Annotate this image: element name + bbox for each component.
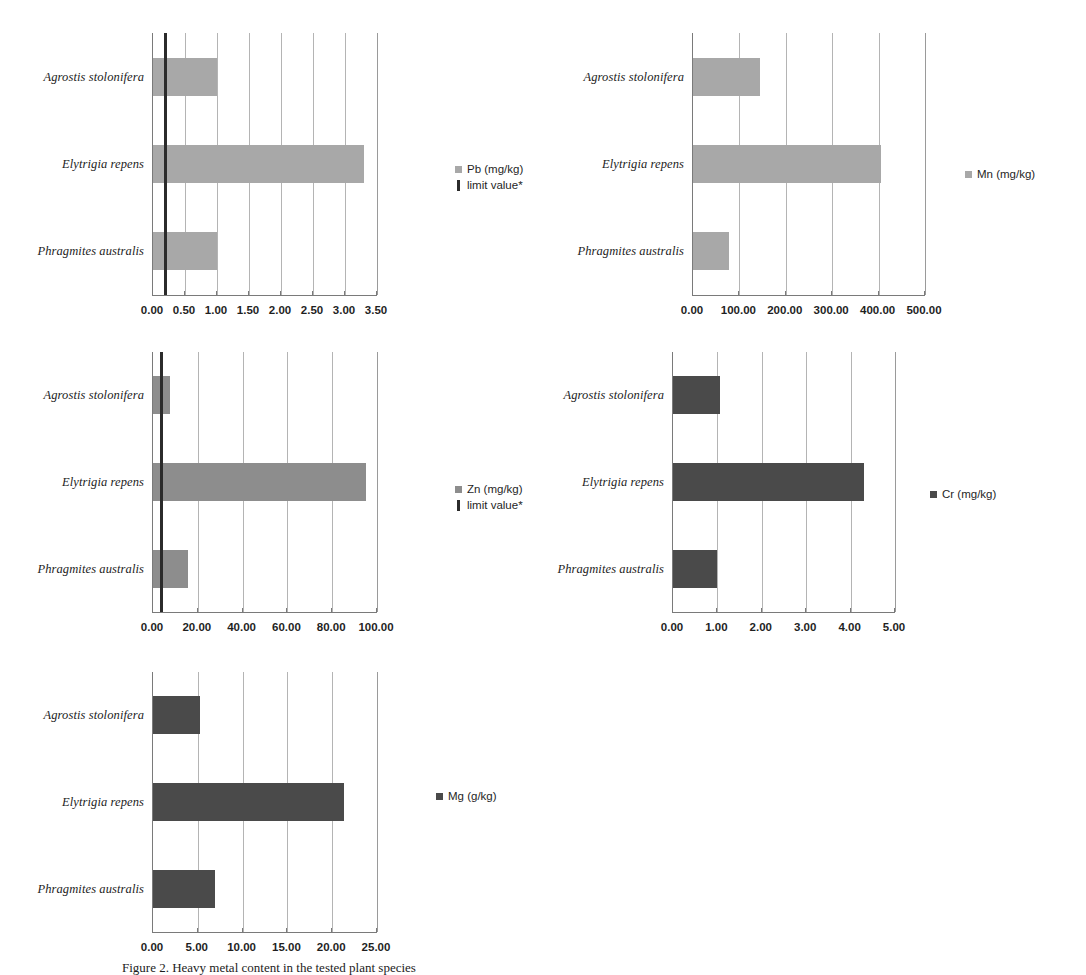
x-axis-tick (152, 291, 153, 296)
legend-item-series: Pb (mg/kg) (455, 163, 523, 176)
gridline (925, 33, 926, 295)
limit-value-line (160, 352, 163, 612)
chart-panel-mg: 0.005.0010.0015.0020.0025.00Agrostis sto… (0, 0, 1086, 975)
x-tick-label: 1.00 (205, 304, 227, 316)
legend-item-series: Zn (mg/kg) (455, 483, 523, 496)
x-axis-tick (376, 928, 377, 933)
x-axis-tick (197, 928, 198, 933)
legend-swatch-icon (455, 486, 462, 493)
x-axis-tick (331, 928, 332, 933)
x-axis-line-pb (152, 295, 376, 296)
x-axis-tick (197, 608, 198, 613)
legend-item-series: Mn (mg/kg) (965, 168, 1035, 181)
bar-mn-2 (693, 232, 729, 270)
chart-panel-zn: 0.0020.0040.0060.0080.00100.00Agrostis s… (0, 0, 1086, 975)
gridline (377, 352, 378, 612)
legend-item-series: Mg (g/kg) (436, 790, 497, 803)
legend-limit-label: limit value* (467, 499, 523, 512)
legend-limit-label: limit value* (467, 179, 523, 192)
x-tick-label: 40.00 (227, 621, 256, 633)
legend-item-limit: limit value* (455, 179, 523, 192)
x-tick-label: 4.00 (838, 621, 860, 633)
x-tick-label: 20.00 (317, 941, 346, 953)
gridline (243, 352, 244, 612)
category-label: Phragmites australis (37, 244, 144, 259)
legend-item-limit: limit value* (455, 499, 523, 512)
gridline (287, 672, 288, 932)
legend-limit-line-icon (457, 500, 460, 511)
plot-area-pb (152, 33, 376, 295)
bar-zn-0 (153, 376, 170, 414)
gridline (832, 33, 833, 295)
gridline (198, 352, 199, 612)
chart-panel-mn: 0.00100.00200.00300.00400.00500.00Agrost… (0, 0, 1086, 975)
legend-swatch-icon (455, 166, 462, 173)
bar-zn-2 (153, 550, 188, 588)
category-label: Phragmites australis (37, 561, 144, 576)
legend-series-label: Pb (mg/kg) (467, 163, 523, 176)
category-label: Phragmites australis (557, 561, 664, 576)
x-axis-tick (672, 608, 673, 613)
legend-swatch-icon (965, 171, 972, 178)
legend-series-label: Zn (mg/kg) (467, 483, 523, 496)
x-axis-tick (216, 291, 217, 296)
legend-swatch-icon (930, 491, 937, 498)
gridline (806, 352, 807, 612)
x-tick-label: 1.00 (705, 621, 727, 633)
category-label: Elytrigia repens (62, 157, 144, 172)
x-axis-tick (312, 291, 313, 296)
bar-cr-2 (673, 550, 717, 588)
x-axis-tick (242, 608, 243, 613)
x-axis-tick (894, 608, 895, 613)
x-tick-label: 0.00 (681, 304, 703, 316)
gridline (243, 672, 244, 932)
chart-panel-pb: 0.000.501.001.502.002.503.003.50Agrostis… (0, 0, 1086, 975)
gridline (345, 33, 346, 295)
category-label: Agrostis stolonifera (563, 388, 664, 403)
x-axis-tick (286, 928, 287, 933)
x-axis-tick (184, 291, 185, 296)
gridline (217, 33, 218, 295)
x-tick-label: 1.50 (237, 304, 259, 316)
x-tick-label: 0.00 (141, 941, 163, 953)
gridline (287, 352, 288, 612)
x-tick-label: 100.00 (721, 304, 756, 316)
x-tick-label: 60.00 (272, 621, 301, 633)
x-tick-label: 15.00 (272, 941, 301, 953)
x-axis-tick (152, 608, 153, 613)
x-axis-tick (738, 291, 739, 296)
x-axis-tick (331, 608, 332, 613)
x-axis-tick (850, 608, 851, 613)
gridline (332, 352, 333, 612)
gridline (762, 352, 763, 612)
legend-swatch-icon (436, 793, 443, 800)
bar-zn-1 (153, 463, 366, 501)
legend-cr: Cr (mg/kg) (930, 488, 996, 504)
x-tick-label: 300.00 (814, 304, 849, 316)
category-label: Phragmites australis (37, 881, 144, 896)
x-tick-label: 20.00 (182, 621, 211, 633)
gridline (717, 352, 718, 612)
gridline (895, 352, 896, 612)
category-label: Elytrigia repens (62, 795, 144, 810)
legend-mg: Mg (g/kg) (436, 790, 497, 806)
x-axis-tick (344, 291, 345, 296)
bar-pb-1 (153, 145, 364, 183)
x-tick-label: 80.00 (317, 621, 346, 633)
x-axis-tick (805, 608, 806, 613)
bar-cr-0 (673, 376, 720, 414)
category-label: Phragmites australis (577, 244, 684, 259)
legend-zn: Zn (mg/kg)limit value* (455, 483, 523, 515)
gridline (313, 33, 314, 295)
x-tick-label: 25.00 (362, 941, 391, 953)
legend-mn: Mn (mg/kg) (965, 168, 1035, 184)
x-axis-tick (716, 608, 717, 613)
x-axis-line-mn (692, 295, 924, 296)
chart-panel-cr: 0.001.002.003.004.005.00Agrostis stoloni… (0, 0, 1086, 975)
legend-limit-line-icon (457, 180, 460, 191)
x-axis-line-mg (152, 932, 376, 933)
x-tick-label: 0.00 (141, 304, 163, 316)
bar-mg-0 (153, 696, 200, 734)
x-axis-tick (242, 928, 243, 933)
x-tick-label: 500.00 (906, 304, 941, 316)
